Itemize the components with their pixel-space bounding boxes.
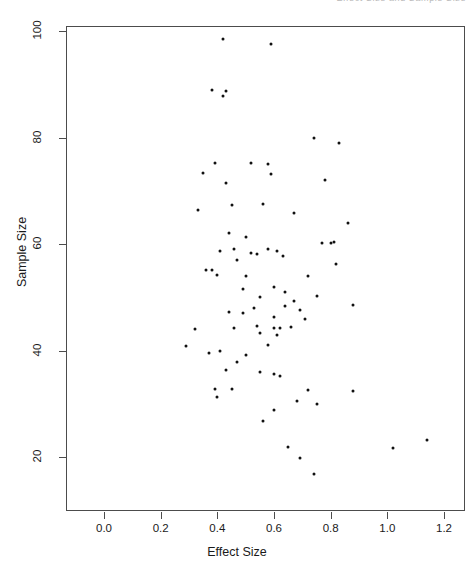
y-axis-tick-label: 100 (31, 13, 43, 47)
x-axis-tick (217, 512, 218, 519)
y-axis-tick-label: 80 (31, 120, 43, 154)
y-axis-title: Sample Size (15, 197, 29, 307)
x-axis-tick (104, 512, 105, 519)
x-axis-tick (444, 512, 445, 519)
y-axis-tick-label: 20 (31, 439, 43, 473)
x-axis-tick (387, 512, 388, 519)
x-axis-tick-label: 0.8 (314, 522, 348, 534)
scatter-plot-figure: Effect Size and Sample Size Sample Size … (0, 0, 474, 577)
x-axis-tick (331, 512, 332, 519)
x-axis-tick-label: 0.2 (144, 522, 178, 534)
plot-frame (66, 26, 465, 511)
y-axis-tick-label: 60 (31, 226, 43, 260)
cropped-header-strip: Effect Size and Sample Size (0, 0, 474, 9)
x-axis-title: Effect Size (0, 545, 474, 559)
x-axis-tick-label: 1.2 (427, 522, 461, 534)
y-axis-tick (59, 351, 66, 352)
x-axis-tick-label: 0.0 (87, 522, 121, 534)
x-axis-tick-label: 0.4 (200, 522, 234, 534)
y-axis-tick (59, 457, 66, 458)
y-axis-tick-label: 40 (31, 333, 43, 367)
x-axis-tick (274, 512, 275, 519)
y-axis-tick (59, 138, 66, 139)
x-axis-tick (161, 512, 162, 519)
x-axis-tick-label: 0.6 (257, 522, 291, 534)
x-axis-tick-label: 1.0 (370, 522, 404, 534)
y-axis-tick (59, 244, 66, 245)
y-axis-tick (59, 31, 66, 32)
cropped-header-text: Effect Size and Sample Size (336, 0, 466, 3)
